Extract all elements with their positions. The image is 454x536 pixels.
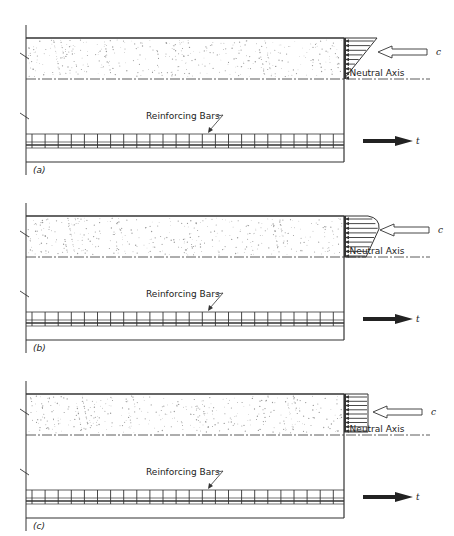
panel-c: Neutral AxisReinforcing Barsct(c) <box>20 381 436 531</box>
compression-arrow-icon <box>380 224 429 236</box>
reinforcing-bars <box>26 312 344 326</box>
panel-caption: (c) <box>33 521 45 531</box>
tension-arrow-icon <box>363 136 413 146</box>
stress-block-rectangular <box>344 394 368 433</box>
compression-label: c <box>438 225 443 235</box>
reinforcing-bars-label: Reinforcing Bars <box>146 111 220 121</box>
concrete-stipple <box>29 396 343 434</box>
panel-b: Neutral AxisReinforcing Barsct(b) <box>20 203 443 353</box>
neutral-axis-label: Neutral Axis <box>350 68 405 78</box>
break-mark-icon <box>20 291 29 297</box>
tension-label: t <box>416 136 420 146</box>
reinforcing-bars-label: Reinforcing Bars <box>146 289 220 299</box>
tension-label: t <box>416 314 420 324</box>
beam-stress-diagram: Neutral AxisReinforcing Barsct(a)Neutral… <box>0 0 454 536</box>
compression-arrow-icon <box>378 46 427 58</box>
compression-label: c <box>436 47 441 57</box>
reinforcing-bars <box>26 134 344 148</box>
break-mark-icon <box>20 113 29 119</box>
tension-arrow-icon <box>363 492 413 502</box>
tension-label: t <box>416 492 420 502</box>
concrete-stipple <box>28 218 343 256</box>
panel-caption: (a) <box>33 165 46 175</box>
break-mark-icon <box>20 469 29 475</box>
tension-arrow-icon <box>363 314 413 324</box>
reinforcing-bars <box>26 490 344 504</box>
break-mark-icon <box>20 53 29 59</box>
reinforcing-bars-label: Reinforcing Bars <box>146 467 220 477</box>
panel-a: Neutral AxisReinforcing Barsct(a) <box>20 25 441 175</box>
break-mark-icon <box>20 409 29 415</box>
compression-arrow-icon <box>373 406 422 418</box>
concrete-stipple <box>28 39 342 77</box>
panel-caption: (b) <box>33 343 46 353</box>
compression-label: c <box>431 407 436 417</box>
break-mark-icon <box>20 231 29 237</box>
